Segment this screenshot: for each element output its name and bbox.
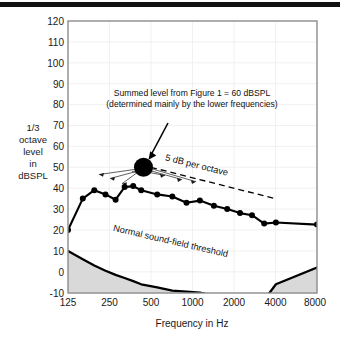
summed-level-annotation-line2: (determined mainly by the lower frequenc…: [106, 99, 278, 109]
y-axis-title-line-4: dBSPL: [18, 170, 48, 181]
y-axis-title-line-0: 1/3: [26, 122, 39, 133]
x-tick-4: 2000: [223, 297, 246, 308]
y-tick-6: 50: [53, 162, 65, 173]
summed-level-annotation-line1: Summed level from Figure 1 = 60 dBSPL: [114, 88, 271, 98]
chart-figure: 5 dB per octave Normal sound-field thres…: [0, 0, 340, 345]
y-tick-10: 90: [53, 79, 65, 90]
x-tick-3: 1000: [181, 297, 204, 308]
x-tick-2: 500: [143, 297, 160, 308]
y-tick-1: 0: [58, 267, 64, 278]
summed-level-dot: [134, 158, 153, 177]
x-tick-1: 250: [101, 297, 118, 308]
y-tick-8: 70: [53, 120, 65, 131]
y-tick-3: 20: [53, 225, 65, 236]
y-tick-12: 110: [48, 37, 64, 48]
y-tick-4: 30: [53, 204, 65, 215]
y-axis-title-line-1: octave: [19, 134, 47, 145]
x-axis-title: Frequency in Hz: [156, 318, 229, 329]
y-axis-title: 1/3 octave level in dBSPL: [18, 122, 48, 181]
y-axis-title-line-2: level: [23, 146, 43, 157]
y-tick-2: 10: [53, 246, 65, 257]
y-tick-11: 100: [47, 58, 64, 69]
x-tick-6: 8000: [304, 297, 327, 308]
y-tick-7: 60: [53, 141, 65, 152]
x-tick-labels: 125 250 500 1000 2000 4000 8000: [60, 297, 327, 308]
x-tick-5: 4000: [264, 297, 287, 308]
y-tick-5: 40: [53, 183, 65, 194]
y-tick-13: 120: [47, 16, 64, 27]
y-tick-labels: -10 0 10 20 30 40 50 60 70 80 90 100 110…: [47, 16, 64, 299]
y-axis-title-line-3: in: [29, 158, 36, 169]
y-tick-9: 80: [53, 99, 65, 110]
x-tick-0: 125: [60, 297, 77, 308]
